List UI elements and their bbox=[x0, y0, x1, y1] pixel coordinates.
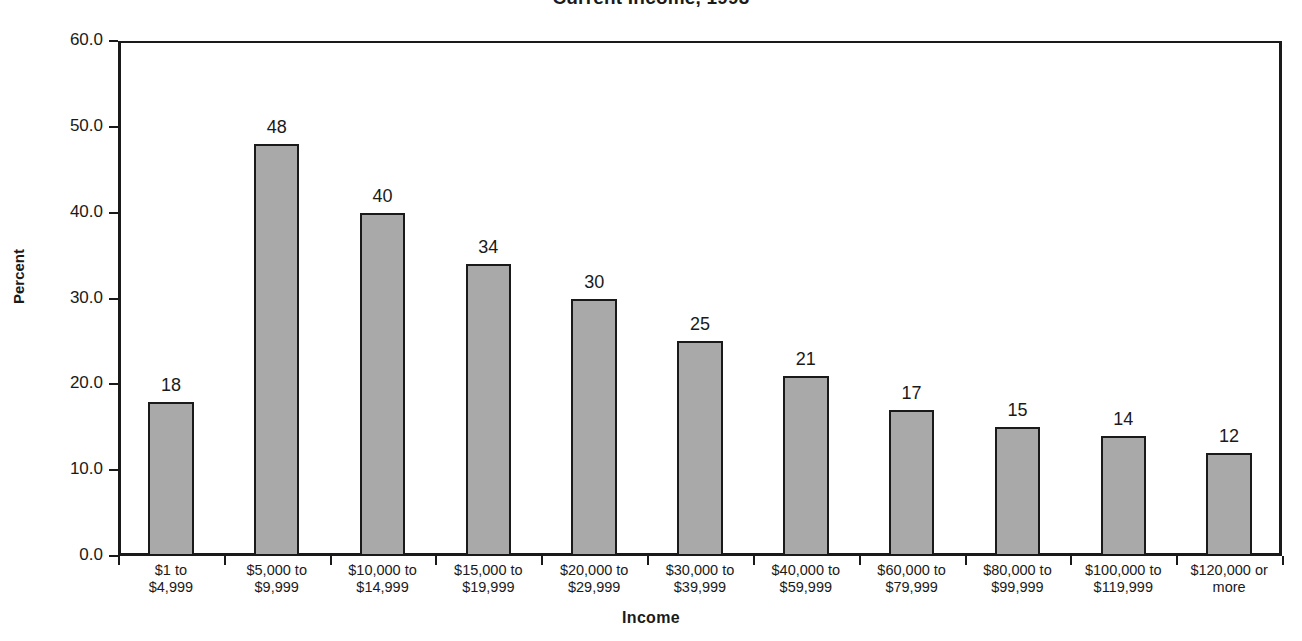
bar-value-label: 40 bbox=[330, 186, 436, 207]
bar-value-label: 12 bbox=[1176, 426, 1282, 447]
x-tick-label: $10,000 to $14,999 bbox=[324, 562, 442, 596]
bar[interactable] bbox=[1206, 453, 1252, 556]
chart-title: Current Income, 1993 bbox=[0, 0, 1302, 9]
bar-value-label: 21 bbox=[753, 349, 859, 370]
bar[interactable] bbox=[466, 264, 512, 556]
x-tick-label: $15,000 to $19,999 bbox=[429, 562, 547, 596]
y-tick-label: 50.0 bbox=[70, 116, 103, 136]
x-tick-label: $60,000 to $79,999 bbox=[853, 562, 971, 596]
bar[interactable] bbox=[677, 341, 723, 556]
y-tick-label: 60.0 bbox=[70, 30, 103, 50]
bar[interactable] bbox=[1101, 436, 1147, 556]
bar-value-label: 15 bbox=[965, 400, 1071, 421]
bar-value-label: 34 bbox=[435, 237, 541, 258]
x-tick-label: $100,000 to $119,999 bbox=[1064, 562, 1182, 596]
y-tick-label: 30.0 bbox=[70, 288, 103, 308]
bar-value-label: 18 bbox=[118, 375, 224, 396]
y-tick-mark bbox=[109, 383, 118, 385]
bar[interactable] bbox=[995, 427, 1041, 556]
x-tick-label: $20,000 to $29,999 bbox=[535, 562, 653, 596]
x-tick-label: $120,000 or more bbox=[1170, 562, 1288, 596]
y-tick-mark bbox=[109, 212, 118, 214]
bar[interactable] bbox=[360, 213, 406, 556]
x-axis-title: Income bbox=[0, 609, 1302, 627]
bar-value-label: 17 bbox=[859, 383, 965, 404]
x-tick-label: $5,000 to $9,999 bbox=[218, 562, 336, 596]
y-tick-label: 0.0 bbox=[79, 545, 103, 565]
x-tick-label: $40,000 to $59,999 bbox=[747, 562, 865, 596]
bar[interactable] bbox=[254, 144, 300, 556]
bar[interactable] bbox=[783, 376, 829, 556]
bar-value-label: 30 bbox=[541, 272, 647, 293]
bar-chart: Current Income, 1993 Percent Income 0.01… bbox=[0, 0, 1302, 641]
x-tick-label: $30,000 to $39,999 bbox=[641, 562, 759, 596]
y-tick-mark bbox=[109, 555, 118, 557]
bar-value-label: 48 bbox=[224, 117, 330, 138]
y-tick-label: 20.0 bbox=[70, 373, 103, 393]
y-tick-mark bbox=[109, 469, 118, 471]
x-tick-label: $1 to $4,999 bbox=[112, 562, 230, 596]
y-axis-title: Percent bbox=[10, 237, 27, 317]
bar[interactable] bbox=[889, 410, 935, 556]
y-tick-label: 40.0 bbox=[70, 202, 103, 222]
y-tick-mark bbox=[109, 298, 118, 300]
bar[interactable] bbox=[571, 299, 617, 557]
y-tick-mark bbox=[109, 40, 118, 42]
x-tick-label: $80,000 to $99,999 bbox=[959, 562, 1077, 596]
bar-value-label: 14 bbox=[1070, 409, 1176, 430]
y-tick-label: 10.0 bbox=[70, 459, 103, 479]
bar-value-label: 25 bbox=[647, 314, 753, 335]
y-tick-mark bbox=[109, 126, 118, 128]
bar[interactable] bbox=[148, 402, 194, 557]
